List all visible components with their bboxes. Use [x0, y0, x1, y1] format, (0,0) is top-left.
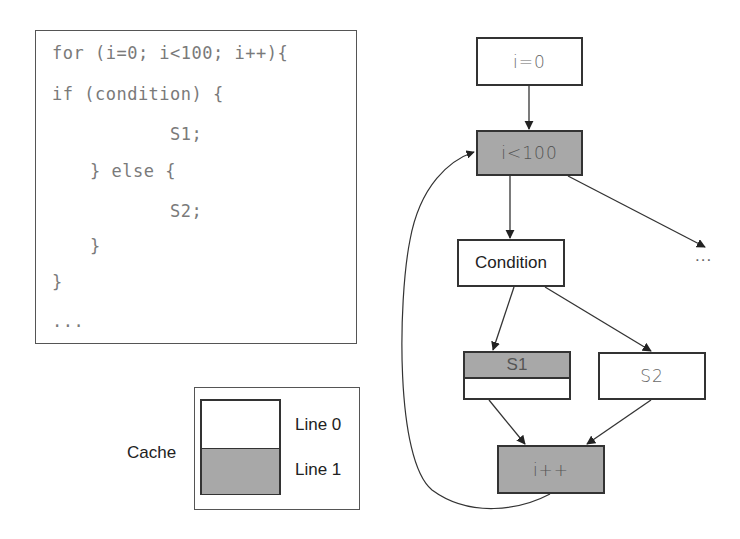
edge-condition-to-s2 — [545, 287, 651, 351]
exit-ellipsis: ... — [695, 246, 712, 266]
node-loop-check: i<100 — [476, 130, 583, 176]
node-condition: Condition — [457, 239, 565, 287]
node-s1-highlight: S1 — [465, 353, 569, 379]
edge-check-to-exit — [568, 176, 705, 247]
node-increment-label: i++ — [533, 460, 569, 480]
node-condition-label: Condition — [475, 253, 547, 273]
node-increment: i++ — [497, 445, 605, 494]
node-loop-check-label: i<100 — [501, 143, 557, 163]
node-init: i=0 — [476, 37, 583, 86]
node-s2-label: S2 — [640, 366, 664, 386]
edge-s2-to-increment — [587, 400, 651, 444]
node-s1-label: S1 — [507, 355, 528, 375]
node-init-label: i=0 — [513, 52, 546, 72]
node-s2: S2 — [598, 352, 706, 400]
edge-condition-to-s1 — [493, 287, 514, 350]
node-s1: S1 — [463, 351, 571, 400]
edge-s1-to-increment — [489, 400, 525, 444]
flowchart-edges — [0, 0, 740, 539]
